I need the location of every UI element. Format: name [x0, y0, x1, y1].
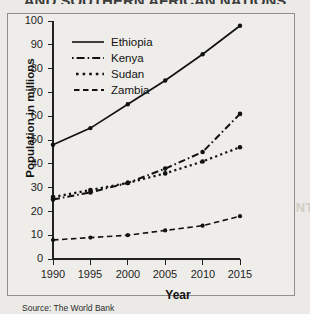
y-axis-label: Population in millions — [24, 53, 36, 183]
legend-swatch-dotted-icon — [70, 68, 106, 80]
x-tick-label-2000: 2000 — [111, 268, 145, 280]
source-note: Source: The World Bank — [22, 303, 114, 313]
legend-item-ethiopia: Ethiopia — [70, 34, 153, 50]
legend-label-sudan: Sudan — [111, 68, 144, 80]
x-tick-label-1990: 1990 — [36, 268, 70, 280]
legend-swatch-dashdot-icon — [70, 52, 106, 64]
y-tick-label-90: 90 — [19, 38, 43, 50]
legend-item-zambia: Zambia — [70, 82, 153, 98]
chart-title: AND SOUTHERN AFRICAN NATIONS — [0, 0, 310, 4]
x-tick-label-2010: 2010 — [186, 268, 220, 280]
series-sudan — [51, 145, 243, 200]
series-zambia — [51, 214, 242, 242]
y-tick-label-20: 20 — [19, 205, 43, 217]
scanned-page-background: OF REPUBLIC KINDOM OF YEARS IN DEVELOPME… — [0, 0, 310, 314]
legend-label-zambia: Zambia — [111, 84, 149, 96]
legend-item-sudan: Sudan — [70, 66, 153, 82]
y-tick-label-10: 10 — [19, 228, 43, 240]
x-tick-label-1995: 1995 — [73, 268, 107, 280]
legend-swatch-dashed-icon — [70, 84, 106, 96]
chart-legend: Ethiopia Kenya Sudan Zambia — [70, 34, 153, 98]
legend-label-kenya: Kenya — [111, 52, 144, 64]
legend-label-ethiopia: Ethiopia — [111, 36, 153, 48]
x-tick-label-2015: 2015 — [223, 268, 257, 280]
series-kenya — [51, 112, 243, 202]
legend-swatch-solid-icon — [70, 36, 106, 48]
y-tick-label-100: 100 — [19, 14, 43, 26]
x-axis-label: Year — [60, 288, 296, 302]
x-tick-label-2005: 2005 — [148, 268, 182, 280]
legend-item-kenya: Kenya — [70, 50, 153, 66]
y-tick-label-0: 0 — [19, 252, 43, 264]
figure-box: 100 90 80 70 60 50 40 30 20 10 0 1990 19… — [7, 13, 295, 296]
